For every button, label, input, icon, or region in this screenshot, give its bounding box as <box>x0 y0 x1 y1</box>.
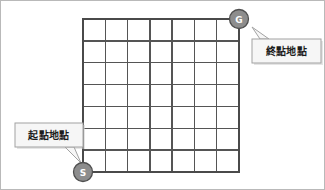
maze-grid <box>83 19 239 172</box>
callout-tail <box>65 147 81 163</box>
grid-maze-figure: 終點地點起點地點 GS <box>1 1 325 190</box>
goal-marker[interactable]: G <box>230 10 249 29</box>
diagram-canvas: 終點地點起點地點 GS <box>0 0 325 190</box>
callout-label: 終點地點 <box>266 45 308 57</box>
callout-label: 起點地點 <box>27 129 70 141</box>
goal-marker-label: G <box>235 15 242 25</box>
callout-group: 終點地點起點地點 <box>15 27 323 163</box>
grid-outer-border <box>83 19 239 172</box>
start-marker-label: S <box>80 168 86 178</box>
goal-callout: 終點地點 <box>252 27 323 65</box>
start-marker[interactable]: S <box>74 163 93 182</box>
callout-tail <box>252 27 269 39</box>
start-callout: 起點地點 <box>15 123 85 163</box>
marker-group: GS <box>74 10 249 182</box>
